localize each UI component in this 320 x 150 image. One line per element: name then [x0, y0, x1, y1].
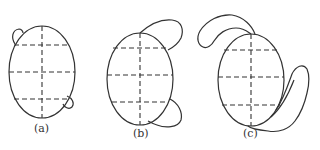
panel-b: (b) [107, 20, 182, 140]
panel-label-c: (c) [243, 127, 258, 140]
panel-a: (a) [9, 26, 75, 135]
ellipse-body-c [218, 34, 284, 126]
panel-label-a: (a) [34, 122, 49, 135]
ellipse-body-b [107, 33, 173, 125]
lobe-lower-right-b [148, 99, 181, 127]
lobe-lower-right-c [248, 66, 309, 132]
panel-c: (c) [198, 15, 309, 140]
diagram-canvas: (a) (b) (c) [0, 0, 320, 150]
lobe-upper-right-b [140, 20, 182, 50]
lobe-upper-left-c [198, 15, 255, 48]
panel-label-b: (b) [133, 127, 149, 140]
lobe-lower-right-a [63, 96, 73, 108]
